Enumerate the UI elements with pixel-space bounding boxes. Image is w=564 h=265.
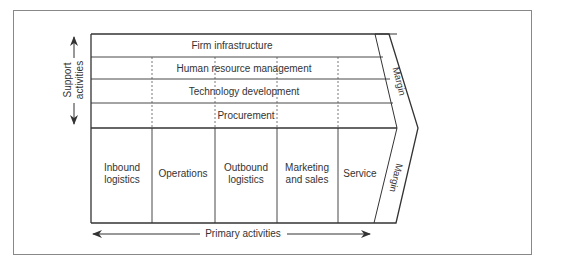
support-activities-label-2: activities — [74, 61, 85, 99]
primary-service: Service — [343, 168, 377, 179]
support-technology-development: Technology development — [189, 86, 300, 97]
margin-label-bottom: Margin — [388, 162, 406, 193]
primary-inbound-l1: Inbound — [104, 162, 140, 173]
value-chain-diagram: Firm infrastructure Human resource manag… — [0, 0, 564, 265]
primary-marketing-l1: Marketing — [285, 162, 329, 173]
primary-inbound-l2: logistics — [104, 174, 140, 185]
primary-operations: Operations — [159, 168, 208, 179]
support-hrm: Human resource management — [176, 63, 311, 74]
primary-outbound-l2: logistics — [228, 174, 264, 185]
support-activities-label-1: Support — [62, 62, 73, 97]
primary-marketing-l2: and sales — [286, 174, 329, 185]
primary-activities-label: Primary activities — [205, 228, 281, 239]
margin-label-top: Margin — [391, 66, 409, 97]
support-firm-infrastructure: Firm infrastructure — [191, 40, 273, 51]
support-procurement: Procurement — [217, 110, 274, 121]
primary-outbound-l1: Outbound — [224, 162, 268, 173]
